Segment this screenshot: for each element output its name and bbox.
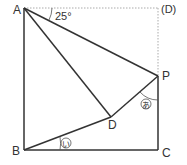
segment-AD xyxy=(24,8,111,117)
angle-mark-i: い xyxy=(62,140,70,149)
label-B: B xyxy=(12,144,20,158)
angle-label-25: 25° xyxy=(55,10,72,22)
label-P: P xyxy=(162,69,170,83)
angle-arc-i xyxy=(60,137,61,150)
fold-diagram: あ い A (D) P D B C 25° xyxy=(0,0,187,165)
label-C: C xyxy=(162,146,171,160)
segment-PD xyxy=(111,76,158,117)
label-A: A xyxy=(13,3,21,17)
angle-mark-a: あ xyxy=(142,101,150,110)
fold-line-AP xyxy=(24,8,158,76)
angle-arc-a xyxy=(140,92,158,100)
label-D: D xyxy=(108,118,117,132)
label-D-original: (D) xyxy=(161,3,176,15)
angle-arc-25 xyxy=(49,8,52,20)
